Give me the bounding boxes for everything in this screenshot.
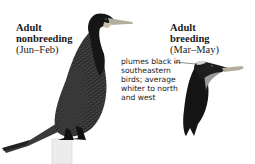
breeding-season: (Mar–May) — [170, 44, 219, 55]
annotation-line: southeastern — [121, 66, 181, 75]
breeding-title-2: breeding — [170, 33, 219, 44]
annotation-line: and west — [121, 93, 181, 102]
breeding-title-1: Adult — [170, 22, 219, 33]
breeding-label: Adult breeding (Mar–May) — [170, 22, 219, 55]
nonbreeding-season: (Jun–Feb) — [16, 44, 72, 55]
annotation-line: plumes black in — [121, 57, 181, 66]
nonbreeding-title-2: nonbreeding — [16, 33, 72, 44]
annotation-line: birds; average — [121, 75, 181, 84]
cormorant-breeding-icon — [183, 61, 244, 136]
annotation-line: whiter to north — [121, 84, 181, 93]
nonbreeding-title-1: Adult — [16, 22, 72, 33]
nonbreeding-label: Adult nonbreeding (Jun–Feb) — [16, 22, 72, 55]
perch-post — [52, 139, 72, 164]
plumage-annotation: plumes black in southeastern birds; aver… — [121, 57, 181, 102]
